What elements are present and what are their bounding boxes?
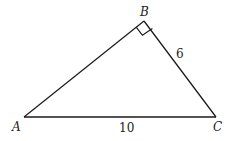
vertex-label-b: B	[139, 5, 149, 19]
side-label-bc: 6	[176, 47, 184, 61]
side-label-ac: 10	[119, 121, 134, 135]
vertex-label-a: A	[11, 120, 21, 134]
triangle-diagram: B A C 6 10	[0, 0, 236, 141]
vertex-label-c: C	[213, 120, 222, 134]
side-ab	[24, 21, 144, 117]
side-bc	[144, 21, 216, 117]
